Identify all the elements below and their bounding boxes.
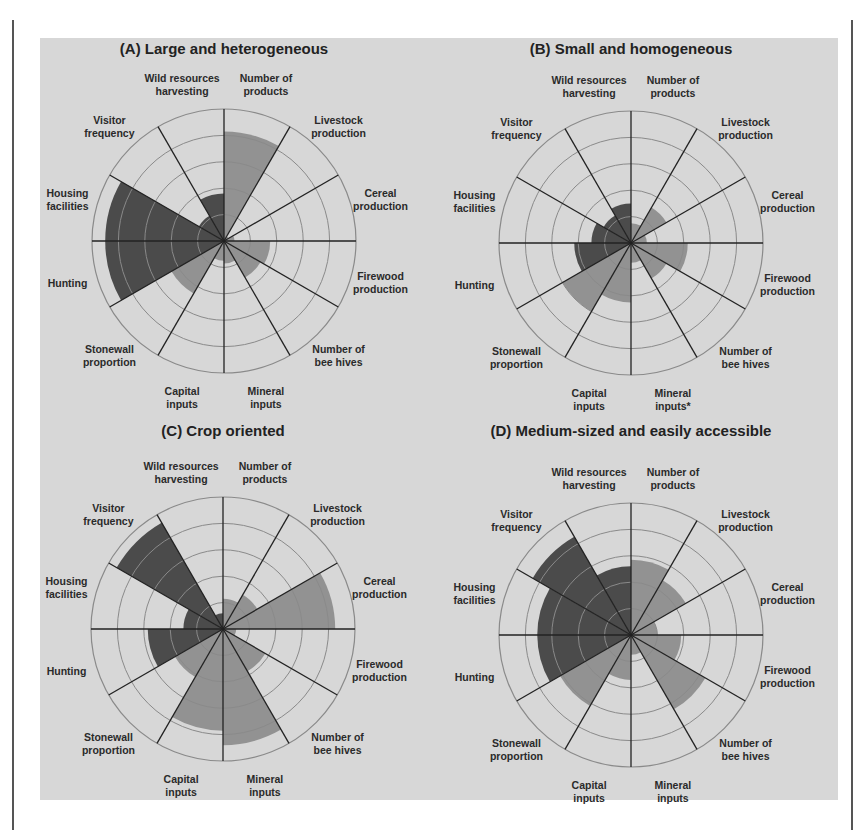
spoke-line (631, 129, 697, 243)
axis-label: Capitalinputs (572, 779, 607, 804)
axis-label: Firewoodproduction (760, 272, 815, 297)
chart-a-large-heterogeneous: (A) Large and heterogeneous Number ofpro… (24, 38, 424, 418)
axis-label: Hunting (455, 671, 495, 683)
axis-label: Number ofbee hives (311, 731, 364, 756)
axis-label: Wild resourcesharvesting (143, 460, 218, 485)
axis-label: Mineralinputs (655, 779, 692, 804)
axis-label: Mineralinputs (248, 385, 285, 410)
axis-label: Mineralinputs (247, 773, 284, 798)
chart-d-medium-accessible: (D) Medium-sized and easily accessible N… (431, 420, 831, 800)
axis-label: Number ofproducts (240, 72, 293, 97)
axis-label: Mineralinputs* (655, 387, 692, 412)
axis-label: Number ofproducts (647, 74, 700, 99)
axis-label: Visitorfrequency (491, 116, 541, 141)
axis-label: Livestockproduction (311, 114, 366, 139)
axis-label: Housingfacilities (46, 575, 88, 600)
axis-label: Number ofbee hives (719, 737, 772, 762)
axis-label: Cerealproduction (353, 187, 408, 212)
chart-c-crop-oriented: (C) Crop oriented Number ofproductsLives… (23, 420, 423, 800)
axis-label: Wild resourcesharvesting (144, 72, 219, 97)
axis-label: Firewoodproduction (353, 270, 408, 295)
axis-label: Visitorfrequency (491, 508, 541, 533)
axis-label: Capitalinputs (572, 387, 607, 412)
axis-label: Livestockproduction (718, 116, 773, 141)
axis-label: Cerealproduction (352, 575, 407, 600)
axis-label: Stonewallproportion (490, 737, 543, 762)
axis-label: Cerealproduction (760, 581, 815, 606)
axis-label: Hunting (455, 279, 495, 291)
spoke-line (631, 243, 745, 309)
axis-label: Capitalinputs (164, 773, 199, 798)
spoke-line (224, 241, 338, 307)
axis-label: Firewoodproduction (760, 664, 815, 689)
axis-label: Housingfacilities (454, 581, 496, 606)
axis-label: Stonewallproportion (490, 345, 543, 370)
page-border-right (851, 20, 853, 830)
axis-label: Capitalinputs (165, 385, 200, 410)
axis-label: Number ofbee hives (312, 343, 365, 368)
page-border-left (12, 20, 14, 830)
axis-label: Firewoodproduction (352, 658, 407, 683)
axis-label: Number ofproducts (239, 460, 292, 485)
spoke-line (631, 177, 745, 243)
polar-area-chart: Number ofproductsLivestockproductionCere… (23, 420, 423, 800)
axis-label: Number ofproducts (647, 466, 700, 491)
axis-label: Housingfacilities (47, 187, 89, 212)
axis-label: Hunting (48, 277, 88, 289)
axis-label: Livestockproduction (310, 502, 365, 527)
axis-label: Number ofbee hives (719, 345, 772, 370)
axis-label: Wild resourcesharvesting (551, 466, 626, 491)
chart-b-small-homogeneous: (B) Small and homogeneous Number ofprodu… (431, 38, 831, 418)
polar-area-chart: Number ofproductsLivestockproductionCere… (24, 38, 424, 418)
polar-area-chart: Number ofproductsLivestockproductionCere… (431, 420, 831, 800)
axis-label: Housingfacilities (454, 189, 496, 214)
axis-label: Visitorfrequency (83, 502, 133, 527)
axis-label: Stonewallproportion (83, 343, 136, 368)
axis-label: Cerealproduction (760, 189, 815, 214)
axis-label: Stonewallproportion (82, 731, 135, 756)
axis-label: Wild resourcesharvesting (551, 74, 626, 99)
axis-label: Livestockproduction (718, 508, 773, 533)
axis-label: Hunting (47, 665, 87, 677)
polar-area-chart: Number ofproductsLivestockproductionCere… (431, 38, 831, 418)
axis-label: Visitorfrequency (84, 114, 134, 139)
wedge-visitor-frequency (117, 523, 223, 629)
